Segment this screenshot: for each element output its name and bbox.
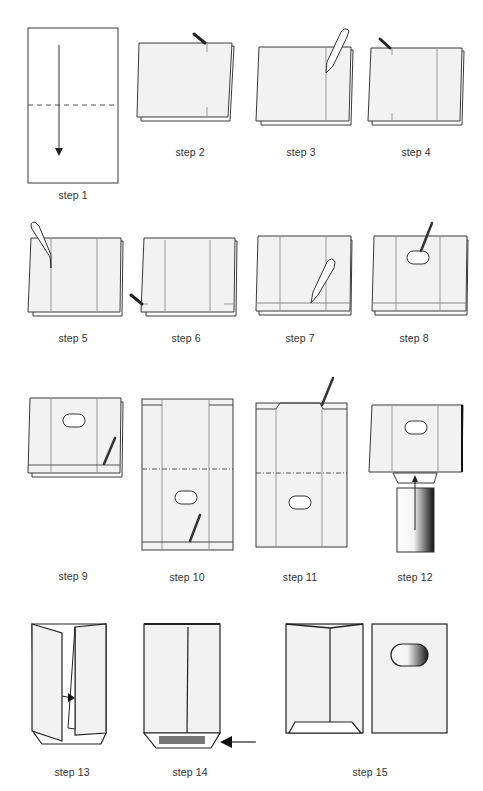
step-3-diagram: step 3: [256, 29, 353, 158]
step-label: step 3: [286, 146, 315, 158]
envelope-back-view: [286, 624, 363, 733]
paper-unfolded: [256, 403, 347, 547]
step-1-diagram: step 1: [28, 28, 118, 201]
step-label: step 9: [58, 570, 87, 582]
window-outline: [405, 421, 427, 434]
window-outline: [407, 251, 429, 264]
paper-folded: [256, 236, 351, 311]
step-14-diagram: step 14: [144, 624, 256, 778]
envelope-front-view: [372, 624, 447, 733]
step-2-diagram: step 2: [137, 34, 234, 158]
step-label: step 14: [172, 766, 207, 778]
pen-icon: [194, 34, 205, 43]
bottom-flap: [289, 722, 361, 733]
window-opening: [391, 644, 428, 666]
step-4-diagram: step 4: [368, 39, 464, 158]
step-label: step 4: [401, 146, 430, 158]
paper-unfolded: [142, 399, 233, 550]
arrow-head-icon: [220, 736, 232, 748]
folding-instructions-diagram: step 1 step 2 step 3 step 4 step 5: [0, 0, 483, 791]
step-label: step 15: [352, 766, 387, 778]
window-outline: [63, 414, 85, 427]
step-10-diagram: step 10: [142, 399, 233, 583]
step-9-diagram: step 9: [28, 398, 123, 582]
step-5-diagram: step 5: [28, 222, 123, 344]
step-label: step 7: [285, 332, 314, 344]
paper-folded: [368, 48, 462, 121]
step-label: step 11: [283, 571, 317, 583]
step-13-diagram: step 13: [32, 624, 106, 778]
window-outline: [289, 496, 311, 509]
paper-folded: [141, 238, 235, 312]
step-label: step 6: [171, 332, 200, 344]
step-12-diagram: step 12: [369, 405, 463, 583]
paper-folded: [369, 405, 463, 472]
step-label: step 8: [399, 332, 428, 344]
glue-strip: [159, 736, 205, 744]
step-label: step 2: [175, 146, 204, 158]
window-outline: [175, 491, 197, 504]
step-11-diagram: step 11: [256, 378, 347, 583]
left-panel: [32, 624, 62, 741]
paper-folded: [28, 238, 121, 312]
right-panel: [75, 624, 106, 735]
scissors-blade-icon: [322, 378, 333, 405]
step-label: step 5: [58, 332, 87, 344]
step-6-diagram: step 6: [131, 238, 237, 344]
paper-folded: [137, 43, 232, 117]
step-label: step 1: [58, 189, 87, 201]
step-label: step 13: [54, 766, 89, 778]
step-15-diagram: step 15: [286, 624, 447, 778]
step-7-diagram: step 7: [256, 236, 352, 344]
step-label: step 10: [169, 571, 204, 583]
pen-icon: [131, 295, 142, 304]
paper-folded: [372, 236, 467, 311]
step-label: step 12: [397, 571, 432, 583]
pen-icon: [380, 39, 390, 48]
envelope-body: [144, 624, 220, 733]
paper-folded: [28, 398, 121, 473]
step-8-diagram: step 8: [372, 223, 468, 344]
